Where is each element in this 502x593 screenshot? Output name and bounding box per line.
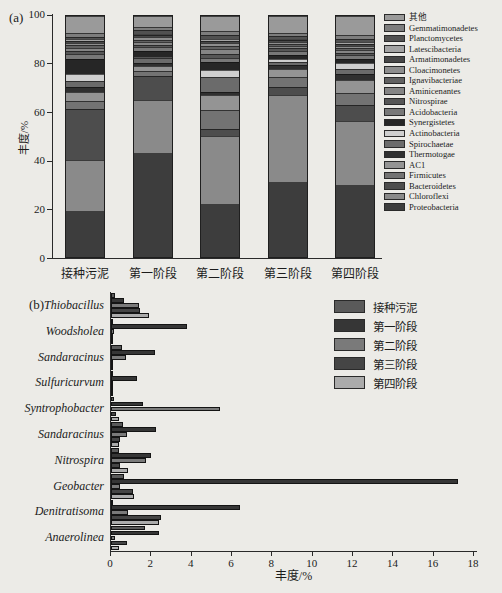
y-tick-mark <box>47 258 52 259</box>
bar-segment-Firmicutes <box>336 93 374 105</box>
x-tick-mark <box>231 552 232 556</box>
bar-segment-AC1 <box>336 80 374 93</box>
stacked-bar-4 <box>268 15 308 258</box>
legend-swatch <box>384 108 405 116</box>
legend-label: Aminicenantes <box>409 87 461 96</box>
legend-item-Firmicutes: Firmicutes <box>384 170 478 181</box>
legend-label: Latescibacteria <box>409 45 461 54</box>
genus-label-Woodsholea: Woodsholea <box>4 324 104 339</box>
panel-a-category-label: 第四阶段 <box>321 264 389 282</box>
hbar-Geobacter-第一阶段 <box>111 479 458 484</box>
legend-item-Planctomycetes: Planctomycetes <box>384 33 478 44</box>
stacked-bar-1 <box>65 15 105 258</box>
legend-swatch <box>384 140 405 148</box>
legend-swatch <box>384 45 405 53</box>
legend-label: Synergistetes <box>409 118 455 127</box>
legend-label: 第一阶段 <box>373 318 417 334</box>
panel-a-category-label: 第三阶段 <box>254 264 322 282</box>
bar-segment-Bacteroidetes <box>201 129 239 136</box>
legend-label: Chloroflexi <box>409 192 449 201</box>
legend-item-Acidobacteria: Acidobacteria <box>384 107 478 118</box>
y-tick-label: 60 <box>19 106 45 118</box>
genus-label-Syntrophobacter: Syntrophobacter <box>4 401 104 416</box>
legend-label: Actinobacteria <box>409 129 460 138</box>
legend-swatch <box>384 151 405 159</box>
legend-item-Ignavibacteriae: Ignavibacteriae <box>384 75 478 86</box>
legend-label: 第二阶段 <box>373 337 417 353</box>
panel-b-legend: 接种污泥第一阶段第二阶段第三阶段第四阶段 <box>334 297 417 392</box>
bar-segment-Synergistetes <box>201 62 239 70</box>
legend-swatch <box>384 77 405 85</box>
bar-segment-其他 <box>336 16 374 35</box>
legend-item-第一阶段: 第一阶段 <box>334 316 417 335</box>
bar-segment-Proteobacteria <box>66 211 104 257</box>
legend-label: AC1 <box>409 161 425 170</box>
bar-segment-Spirochaetae <box>201 77 239 92</box>
stacked-bar-2 <box>133 15 173 258</box>
bar-segment-其他 <box>66 16 104 33</box>
genus-label-Sandaracinus: Sandaracinus <box>4 350 104 365</box>
legend-label: Planctomycetes <box>409 34 463 43</box>
bar-segment-Chloroflexi <box>134 100 172 153</box>
legend-label: Proteobacteria <box>409 203 459 212</box>
x-tick-mark <box>433 552 434 556</box>
legend-item-第二阶段: 第二阶段 <box>334 335 417 354</box>
hbar-Sandaracinus-第四阶段 <box>111 442 119 447</box>
legend-label: 接种污泥 <box>373 299 417 315</box>
panel-b-x-axis-line <box>110 551 477 552</box>
legend-label: 第四阶段 <box>373 375 417 391</box>
hbar-Syntrophobacter-第二阶段 <box>111 407 220 412</box>
legend-label: Nitrospirae <box>409 97 448 106</box>
bar-segment-Proteobacteria <box>134 153 172 257</box>
legend-item-Cloacimonetes: Cloacimonetes <box>384 65 478 76</box>
hbar-Sulfuricurvum-第四阶段 <box>111 391 113 396</box>
legend-item-Nitrospirae: Nitrospirae <box>384 96 478 107</box>
hbar-Nitrospira-第四阶段 <box>111 468 128 473</box>
genus-label-Sandaracinus: Sandaracinus <box>4 427 104 442</box>
panel-a-category-label: 接种污泥 <box>51 264 119 282</box>
legend-swatch <box>334 338 365 351</box>
bar-segment-Chloroflexi <box>66 160 104 211</box>
legend-swatch <box>384 161 405 169</box>
legend-swatch <box>384 35 405 43</box>
legend-swatch <box>384 14 405 22</box>
legend-swatch <box>384 130 405 138</box>
legend-label: Thermotogae <box>409 150 455 159</box>
bar-segment-Firmicutes <box>201 110 239 129</box>
legend-item-接种污泥: 接种污泥 <box>334 297 417 316</box>
panel-a-category-label: 第一阶段 <box>119 264 187 282</box>
genus-label-Geobacter: Geobacter <box>4 479 104 494</box>
y-tick-label: 100 <box>19 8 45 20</box>
legend-swatch <box>384 193 405 201</box>
bar-segment-Firmicutes <box>269 77 307 87</box>
legend-label: Ignavibacteriae <box>409 76 462 85</box>
legend-item-Proteobacteria: Proteobacteria <box>384 202 478 213</box>
bar-segment-Proteobacteria <box>201 204 239 257</box>
hbar-Sandaracinus-第二阶段 <box>111 355 126 360</box>
bar-segment-AC1 <box>66 92 104 101</box>
bar-segment-Firmicutes <box>66 101 104 109</box>
bar-segment-Bacteroidetes <box>66 109 104 161</box>
hbar-Syntrophobacter-第四阶段 <box>111 417 119 422</box>
bar-segment-Synergistetes <box>66 59 104 74</box>
legend-swatch <box>334 319 365 332</box>
y-tick-label: 80 <box>19 57 45 69</box>
legend-label: Gemmatimonadetes <box>409 24 478 33</box>
bar-segment-Proteobacteria <box>269 182 307 257</box>
panel-a-category-label: 第二阶段 <box>186 264 254 282</box>
hbar-Sulfuricurvum-第一阶段 <box>111 376 137 381</box>
legend-swatch <box>334 376 365 389</box>
y-tick-label: 20 <box>19 203 45 215</box>
bar-segment-AC1 <box>201 95 239 110</box>
legend-swatch <box>384 203 405 211</box>
legend-item-Thermotogae: Thermotogae <box>384 149 478 160</box>
bar-segment-Chloroflexi <box>269 95 307 182</box>
genus-label-Anaerolinea: Anaerolinea <box>4 530 104 545</box>
legend-item-Gemmatimonadetes: Gemmatimonadetes <box>384 23 478 34</box>
legend-item-Latescibacteria: Latescibacteria <box>384 44 478 55</box>
legend-swatch <box>384 172 405 180</box>
x-tick-mark <box>271 552 272 556</box>
figure-page: (a) 丰度/% 020406080100 接种污泥第一阶段第二阶段第三阶段第四… <box>0 0 502 593</box>
legend-item-Actinobacteria: Actinobacteria <box>384 128 478 139</box>
panel-a-y-axis-line <box>52 14 53 259</box>
